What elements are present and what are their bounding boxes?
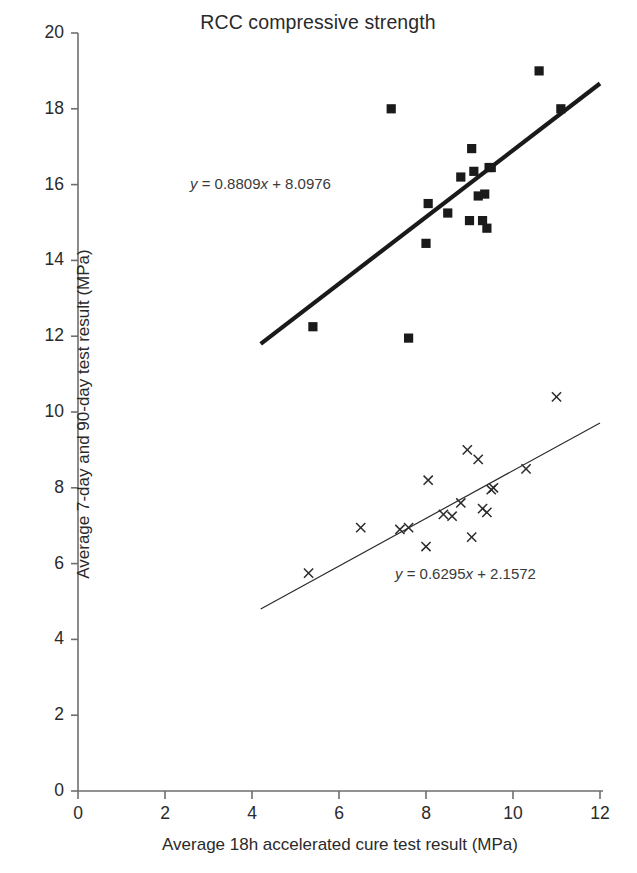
y-axis-title: Average 7-day and 90-day test result (MP… <box>74 94 94 734</box>
data-markers <box>304 66 566 577</box>
y-tick-label-0: 0 <box>24 780 64 801</box>
y-tick-label-4: 4 <box>24 628 64 649</box>
x-tick-label-10: 10 <box>493 803 533 824</box>
x-tick-label-0: 0 <box>58 803 98 824</box>
y-tick-label-12: 12 <box>24 325 64 346</box>
equation-suffix: + 2.1572 <box>473 565 536 582</box>
axes <box>71 33 603 799</box>
y-tick-label-18: 18 <box>24 98 64 119</box>
trendlines <box>261 83 600 609</box>
chart-figure: RCC compressive strength Average 18h acc… <box>0 0 637 873</box>
y-tick-label-14: 14 <box>24 249 64 270</box>
x-tick-label-2: 2 <box>145 803 185 824</box>
y-tick-label-8: 8 <box>24 477 64 498</box>
trendline-equation-lower: y = 0.6295x + 2.1572 <box>395 565 536 582</box>
x-axis-title: Average 18h accelerated cure test result… <box>70 835 610 855</box>
x-tick-label-6: 6 <box>319 803 359 824</box>
x-tick-label-8: 8 <box>406 803 446 824</box>
equation-body: = 0.6295 <box>403 565 466 582</box>
scatter-plot-canvas <box>0 0 637 873</box>
equation-variable-y: y <box>395 565 403 582</box>
x-tick-label-12: 12 <box>580 803 620 824</box>
equation-variable-x: x <box>260 175 268 192</box>
y-tick-label-16: 16 <box>24 174 64 195</box>
y-tick-label-20: 20 <box>24 22 64 43</box>
equation-variable-y: y <box>190 175 198 192</box>
equation-suffix: + 8.0976 <box>268 175 331 192</box>
x-tick-label-4: 4 <box>232 803 272 824</box>
y-tick-label-6: 6 <box>24 553 64 574</box>
y-tick-label-2: 2 <box>24 704 64 725</box>
y-tick-label-10: 10 <box>24 401 64 422</box>
equation-variable-x: x <box>465 565 473 582</box>
trendline-equation-upper: y = 0.8809x + 8.0976 <box>190 175 331 192</box>
equation-body: = 0.8809 <box>198 175 261 192</box>
page-title: RCC compressive strength <box>168 11 468 34</box>
